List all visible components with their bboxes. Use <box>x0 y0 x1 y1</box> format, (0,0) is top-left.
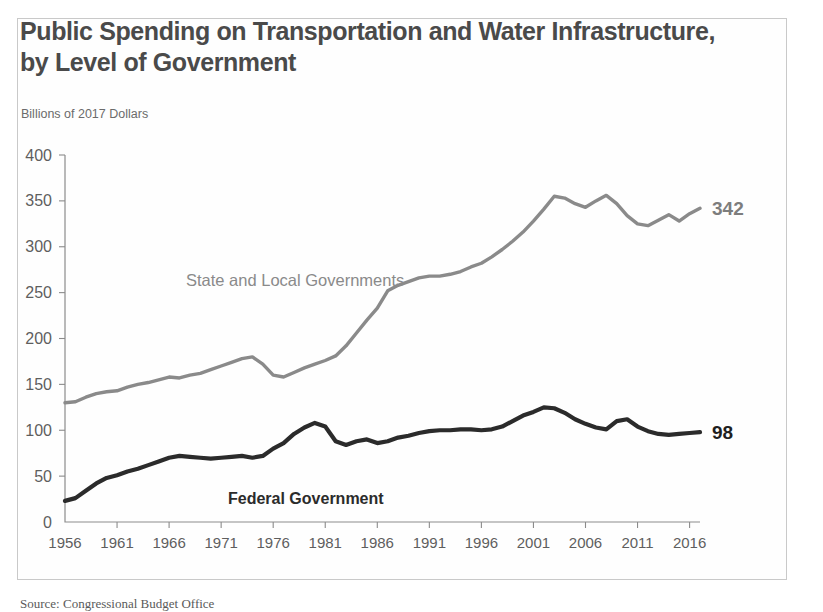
chart-axes <box>59 155 700 528</box>
svg-text:300: 300 <box>25 238 52 255</box>
chart-source-note: Source: Congressional Budget Office <box>20 596 214 612</box>
svg-text:250: 250 <box>25 284 52 301</box>
svg-text:2001: 2001 <box>517 534 550 551</box>
svg-text:1961: 1961 <box>100 534 133 551</box>
svg-text:1986: 1986 <box>361 534 394 551</box>
svg-text:1956: 1956 <box>48 534 81 551</box>
svg-text:1966: 1966 <box>152 534 185 551</box>
svg-text:150: 150 <box>25 376 52 393</box>
series-path-federal <box>65 407 700 501</box>
svg-text:1991: 1991 <box>413 534 446 551</box>
svg-text:2016: 2016 <box>673 534 706 551</box>
svg-text:1971: 1971 <box>204 534 237 551</box>
svg-text:350: 350 <box>25 192 52 209</box>
series-path-state-local <box>65 195 700 402</box>
svg-text:400: 400 <box>25 147 52 164</box>
end-label-state-local: 342 <box>712 198 744 219</box>
chart-series-lines <box>65 195 700 501</box>
svg-text:50: 50 <box>34 468 52 485</box>
svg-text:200: 200 <box>25 330 52 347</box>
svg-text:0: 0 <box>43 514 52 531</box>
series-label-state-local: State and Local Governments <box>186 271 404 289</box>
svg-text:1996: 1996 <box>465 534 498 551</box>
series-label-federal: Federal Government <box>228 490 384 507</box>
line-chart-svg: 050100150200250300350400 195619611966197… <box>0 0 770 562</box>
chart-series-annotations: 34298State and Local GovernmentsFederal … <box>186 198 744 507</box>
svg-text:1976: 1976 <box>257 534 290 551</box>
x-axis-tick-labels: 1956196119661971197619811986199119962001… <box>48 534 706 551</box>
svg-text:2006: 2006 <box>569 534 602 551</box>
y-axis-tick-labels: 050100150200250300350400 <box>25 147 52 531</box>
svg-text:2011: 2011 <box>621 534 653 551</box>
svg-text:1981: 1981 <box>309 534 342 551</box>
svg-text:100: 100 <box>25 422 52 439</box>
chart-plot-area: 050100150200250300350400 195619611966197… <box>0 0 770 562</box>
end-label-federal: 98 <box>712 422 733 443</box>
